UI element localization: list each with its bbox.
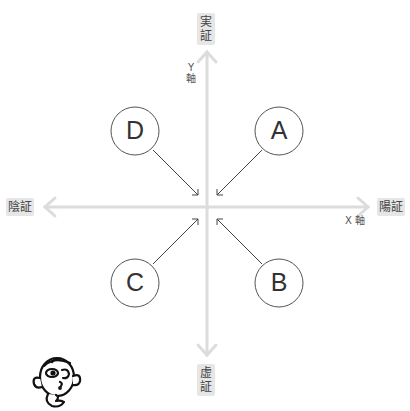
diagram-canvas: [0, 0, 410, 411]
thinking-face-icon: [34, 358, 81, 407]
right-axis-label: 陽証: [377, 198, 405, 216]
y-axis-name-line2: 軸: [184, 73, 198, 84]
node-label-c: C: [115, 268, 155, 297]
arrow-c: [153, 219, 198, 264]
arrow-a: [217, 150, 262, 195]
node-label-b: B: [259, 268, 299, 297]
node-label-d: D: [115, 116, 155, 145]
node-label-a: A: [259, 116, 299, 145]
arrow-d: [153, 150, 198, 195]
bottom-axis-label: 虚証: [197, 364, 215, 396]
y-axis-name-line1: Y: [184, 62, 198, 73]
left-axis-label: 陰証: [6, 198, 34, 216]
x-axis-name: X 軸: [345, 215, 365, 226]
y-axis-name: Y 軸: [184, 62, 198, 84]
top-axis-label: 実証: [197, 13, 215, 45]
arrow-b: [217, 219, 262, 264]
